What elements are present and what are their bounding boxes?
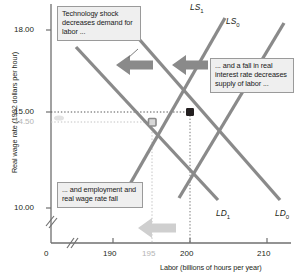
callout-leader-line [128, 49, 138, 58]
y-tick-label-15: 15.00 [14, 107, 34, 116]
curve-ls0 [179, 23, 284, 198]
curve-label-ls0: LS0 [226, 16, 240, 28]
y-tick-label-1450: 14.50 [14, 117, 34, 126]
x-tick-label-190: 190 [103, 249, 116, 258]
curve-label-ls1: LS1 [190, 2, 204, 14]
x-tick-label-210: 210 [257, 249, 270, 258]
x-tick-label-200: 200 [180, 249, 193, 258]
curve-label-ld0: LD0 [275, 208, 289, 220]
x-axis-title: Labor (billions of hours per year) [160, 263, 262, 272]
origin-label: 0 [44, 249, 48, 258]
chart-canvas [0, 0, 298, 276]
y-tick-label-18: 18.00 [14, 25, 34, 34]
new-equilibrium-marker [149, 119, 157, 127]
x-tick-label-195: 195 [142, 249, 155, 258]
employment-fall-arrow [138, 218, 176, 238]
callout-technology-shock: Technology shock decreases demand for la… [57, 6, 141, 41]
demand-shift-arrow [116, 55, 153, 75]
chart-figure: Technology shock decreases demand for la… [0, 0, 298, 276]
y-tick-label-10: 10.00 [14, 203, 34, 212]
y-1450-highlight [54, 115, 64, 120]
callout-interest-rate: ... and a fall in real interest rate dec… [210, 58, 294, 93]
callout-employment-fall: ... and employment and real wage rate fa… [57, 182, 143, 208]
curve-ls1 [122, 18, 225, 198]
curve-label-ld1: LD1 [216, 208, 230, 220]
initial-equilibrium-marker [186, 108, 194, 116]
